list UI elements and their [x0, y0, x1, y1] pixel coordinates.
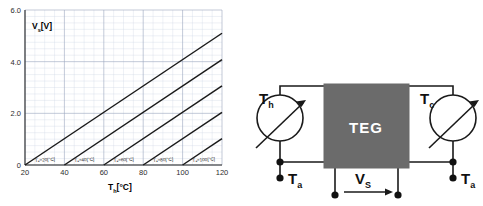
node-ambient-right [449, 174, 456, 181]
x-tick-20: 20 [21, 168, 29, 177]
x-axis-title: Th[°C] [108, 182, 132, 194]
y-tick-2.0: 2.0 [11, 109, 21, 118]
wire-hot-bottom [280, 141, 325, 162]
node-right-junction [449, 158, 456, 165]
y-axis-title: Vs[V] [32, 21, 52, 33]
ambient-right-label: Ta [461, 170, 476, 190]
node-ambient-left [276, 174, 283, 181]
x-tick-120: 120 [216, 168, 229, 177]
y-tick-labels: 02.04.06.0 [11, 6, 21, 170]
y-tick-0: 0 [17, 161, 21, 170]
node-output-right [394, 191, 401, 198]
cold-side-label: Tc [420, 90, 434, 110]
wire-hot-top [280, 86, 325, 95]
vs-arrow-head [385, 189, 393, 196]
ambient-left-label: Ta [288, 170, 303, 190]
teg-voltage-chart: 20406080100120 02.04.06.0 Tₐ=20[°C]Tₐ=40… [0, 0, 250, 206]
cold-side-source [429, 95, 479, 148]
node-output-left [331, 191, 338, 198]
x-tick-100: 100 [176, 168, 189, 177]
minor-gridlines [25, 10, 222, 165]
wire-cold-bottom [408, 141, 453, 162]
wire-cold-top [408, 86, 453, 95]
x-tick-60: 60 [100, 168, 108, 177]
output-voltage-label: VS [355, 170, 371, 190]
diagram-panel: TEG [250, 0, 483, 206]
cold-source-circle [430, 95, 476, 141]
teg-circuit-diagram: TEG [250, 0, 483, 206]
chart-panel: 20406080100120 02.04.06.0 Tₐ=20[°C]Tₐ=40… [0, 0, 250, 206]
y-tick-4.0: 4.0 [11, 58, 21, 67]
x-tick-labels: 20406080100120 [21, 168, 228, 177]
node-left-junction [276, 158, 283, 165]
teg-block-label: TEG [349, 119, 383, 136]
x-tick-40: 40 [60, 168, 68, 177]
y-tick-6.0: 6.0 [11, 6, 21, 15]
x-tick-80: 80 [139, 168, 147, 177]
figure-root: 20406080100120 02.04.06.0 Tₐ=20[°C]Tₐ=40… [0, 0, 483, 206]
